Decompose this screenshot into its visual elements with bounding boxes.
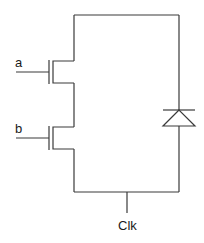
- transistor-a: [16, 60, 74, 84]
- transistor-b: [16, 126, 74, 150]
- input-a-label: a: [15, 55, 23, 70]
- input-b-label: b: [15, 121, 22, 136]
- circuit-diagram: a b Clk: [0, 0, 204, 243]
- diode: [163, 110, 195, 126]
- diode-triangle: [163, 110, 195, 126]
- clock-label: Clk: [118, 218, 137, 233]
- transistor-a-drain: [53, 61, 74, 83]
- transistor-b-drain: [53, 127, 74, 149]
